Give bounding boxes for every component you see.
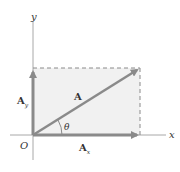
vector-a-label: A <box>73 91 82 102</box>
origin-label: O <box>20 140 28 151</box>
y-component-label: Ay <box>16 95 29 109</box>
x-component-label: Ax <box>78 142 91 155</box>
x-axis-label: x <box>169 129 175 140</box>
angle-theta-label: θ <box>64 122 70 132</box>
y-axis-label: y <box>30 11 37 22</box>
vector-diagram: y x O A θ Ay Ax <box>0 0 180 172</box>
